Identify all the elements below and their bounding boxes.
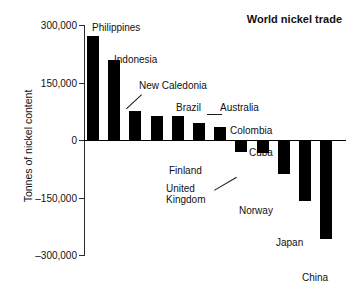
bar-label-philippines: Philippines (92, 22, 140, 33)
bar-label-colombia: Colombia (230, 125, 272, 136)
leader-line (126, 94, 142, 109)
bar-cuba (214, 127, 226, 140)
bar-philippines (87, 36, 99, 140)
bar-label-finland: Finland (169, 165, 202, 176)
plot-area: PhilippinesIndonesiaNew CaledoniaBrazilA… (84, 25, 346, 256)
y-tick-label: 300,000 (41, 20, 77, 31)
bar-label-norway: Norway (239, 205, 273, 216)
y-tick-label: –300,000 (35, 250, 77, 261)
bar-finland (235, 140, 247, 152)
bar-colombia (193, 123, 205, 140)
bar-label-indonesia: Indonesia (114, 54, 157, 65)
bar-brazil (151, 116, 163, 140)
leader-line (207, 114, 222, 115)
leader-line (214, 177, 237, 191)
bar-norway (278, 140, 290, 174)
chart-title: World nickel trade (247, 13, 342, 25)
y-tick-label: –150,000 (35, 192, 77, 203)
bar-label-brazil: Brazil (176, 102, 201, 113)
bar-label-australia: Australia (220, 102, 259, 113)
bar-label-new-caledonia: New Caledonia (139, 80, 207, 91)
bar-australia (172, 116, 184, 140)
bar-china (320, 140, 332, 239)
y-tick-label: 150,000 (41, 77, 77, 88)
bar-label-china: China (302, 272, 328, 283)
bar-japan (299, 140, 311, 201)
bar-new-caledonia (129, 111, 141, 140)
bar-label-japan: Japan (276, 237, 303, 248)
y-tick-label: 0 (71, 135, 77, 146)
y-axis-title: Tonnes of nickel content (22, 61, 34, 231)
bar-united-kingdom (257, 140, 269, 153)
bar-label-united-kingdom: UnitedKingdom (166, 183, 205, 205)
bar-indonesia (108, 60, 120, 140)
